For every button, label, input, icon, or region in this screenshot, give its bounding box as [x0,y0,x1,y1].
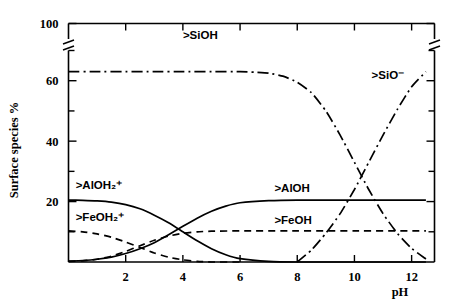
series-label-SiOH: >SiOH [183,29,218,41]
series-label-AlOH: >AlOH [274,182,309,194]
y-axis-right-break-marker [429,40,440,50]
series-label-FeOH: >FeOH [274,214,311,226]
y-tick-label-20: 20 [46,195,59,209]
x-axis-title: pH [392,285,409,299]
y-axis-tick-labels: 204060100 [40,17,59,209]
x-axis-ticks [126,24,412,263]
data-curves [69,72,426,262]
y-tick-label-100: 100 [40,17,59,31]
x-tick-label-6: 6 [237,270,243,284]
y-tick-label-40: 40 [46,135,59,149]
surface-speciation-chart: 24681012 204060100 >SiOH>SiO⁻>AlOH₂⁺>AlO… [0,0,458,305]
series-label-AlOH2: >AlOH₂⁺ [76,179,123,191]
curve-FeOH2 [69,231,241,262]
x-axis-tick-labels: 24681012 [123,270,418,284]
y-axis-title: Surface species % [7,102,21,199]
series-label-SiO: >SiO⁻ [372,69,405,81]
series-label-FeOH2: >FeOH₂⁺ [76,211,125,223]
curve-SiO [297,72,426,262]
plot-frame [69,24,435,263]
x-tick-label-4: 4 [180,270,187,284]
chart-canvas: 24681012 204060100 >SiOH>SiO⁻>AlOH₂⁺>AlO… [0,0,458,305]
x-tick-label-8: 8 [294,270,300,284]
x-tick-label-12: 12 [405,270,418,284]
series-labels: >SiOH>SiO⁻>AlOH₂⁺>AlOH>FeOH₂⁺>FeOH [76,29,404,226]
x-tick-label-2: 2 [123,270,129,284]
y-tick-label-60: 60 [46,74,59,88]
curve-FeOH [69,231,426,262]
y-axis-break-marker [63,40,74,50]
x-tick-label-10: 10 [348,270,361,284]
